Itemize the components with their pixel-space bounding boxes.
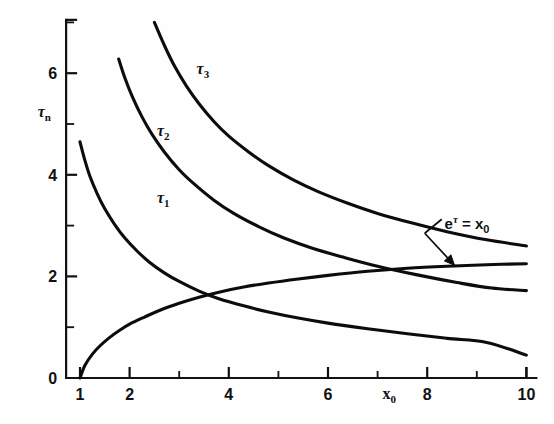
curve-label-tau_3: τ3	[197, 60, 210, 80]
chart-plot: 02461246810τ1τ2τ3x0τneτ = x0	[0, 0, 554, 424]
curve-e_tau_equals_x0	[80, 264, 526, 378]
annotation-e-tau-equals-x0: eτ = x0	[445, 213, 490, 235]
curve-tau_1	[80, 142, 526, 355]
figure-container: 02461246810τ1τ2τ3x0τneτ = x0	[0, 0, 554, 424]
curve-tau_2	[119, 59, 527, 291]
x-tick-label-4: 4	[224, 386, 233, 403]
curve-tau_3	[154, 22, 526, 246]
x-tick-label-2: 2	[125, 386, 134, 403]
x-tick-label-10: 10	[518, 386, 536, 403]
x-axis-title: x0	[383, 385, 397, 405]
y-axis-title: τn	[38, 103, 51, 123]
y-tick-label-2: 2	[48, 268, 57, 285]
y-tick-label-6: 6	[48, 65, 57, 82]
y-tick-label-4: 4	[48, 167, 57, 184]
curve-label-tau_1: τ1	[157, 189, 170, 209]
curve-label-tau_2: τ2	[157, 122, 170, 142]
x-tick-label-6: 6	[324, 386, 333, 403]
x-tick-label-1: 1	[76, 386, 85, 403]
chart-axes	[66, 20, 536, 378]
y-tick-label-0: 0	[48, 370, 57, 387]
x-tick-label-8: 8	[423, 386, 432, 403]
